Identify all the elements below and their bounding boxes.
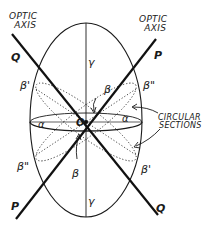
beta-double-prime-left-label: β": [17, 161, 29, 172]
beta-top-label: β: [104, 84, 111, 95]
alpha-right-label: α: [122, 114, 129, 124]
optic-axis-left-line2: AXIS: [13, 21, 37, 30]
optic-axis-left-label: OPTIC AXIS: [9, 12, 37, 30]
beta-bottom-label: β: [72, 168, 79, 179]
circular-sections-pointer-2: [136, 129, 160, 146]
optic-axis-right-line2: AXIS: [143, 24, 167, 33]
beta-prime-right-label: β': [141, 164, 151, 175]
indicatrix-figure: OPTIC AXIS OPTIC AXIS CIRCULAR SECTIONS …: [0, 0, 204, 229]
p-bottom-label: P: [11, 201, 19, 212]
beta-prime-left-label: β': [20, 80, 30, 91]
gamma-top-label: γ: [88, 57, 95, 68]
optic-axis-right-label: OPTIC AXIS: [139, 15, 167, 33]
optic-axis-q: [12, 34, 158, 215]
circular-sections-label: CIRCULAR SECTIONS: [157, 114, 202, 130]
q-top-label: Q: [11, 52, 20, 63]
gamma-bottom-label: γ: [88, 196, 95, 207]
beta-double-prime-right-label: β": [143, 80, 155, 91]
alpha-left-label: α: [38, 120, 45, 130]
p-top-label: P: [154, 50, 162, 61]
q-bottom-label: Q: [156, 203, 165, 214]
origin-label: O: [76, 118, 85, 128]
circular-sections-line2: SECTIONS: [159, 122, 202, 130]
